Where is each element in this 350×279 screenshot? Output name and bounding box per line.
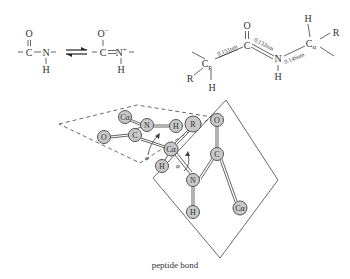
resonance-right: O− C N+ H: [92, 27, 134, 75]
bond-length-label-1: 0.151nm: [216, 43, 238, 57]
svg-text:Cα: Cα: [120, 113, 130, 122]
svg-text:φ: φ: [176, 162, 180, 170]
atom-n: N: [274, 53, 281, 64]
bond-length-structure: CR R H 0.151nm O C 0.132nm N H 0.146nm C…: [187, 13, 340, 93]
svg-text:N: N: [190, 176, 196, 185]
atom-c-alpha-center: Cα: [164, 142, 178, 156]
equilibrium-arrow-icon: [66, 47, 87, 57]
svg-text:φ: φ: [145, 154, 149, 162]
atom-c-alpha: Cα: [233, 201, 247, 215]
svg-text:O: O: [214, 116, 220, 125]
svg-text:N: N: [144, 121, 150, 130]
atom-n: N: [42, 47, 49, 58]
peptide-plane-model: φ φ Cα N H R O C Cα H N H C O Cα: [59, 100, 278, 258]
svg-text:R: R: [190, 120, 196, 129]
caption: peptide bond: [0, 260, 350, 270]
atom-n: N: [187, 174, 200, 187]
atom-h: H: [274, 71, 281, 82]
svg-text:H: H: [190, 208, 196, 217]
atom-o: O: [98, 131, 111, 144]
atom-o: O: [211, 114, 224, 127]
phi-rotation-arrow-icon: φ: [145, 133, 160, 162]
resonance-left: O C N H: [18, 28, 56, 75]
svg-text:H: H: [159, 162, 165, 171]
atom-c-alpha: Cα: [119, 111, 132, 124]
atom-r: R: [333, 27, 340, 38]
atom-c-r: CR: [202, 58, 213, 71]
atom-h: H: [170, 120, 183, 133]
atom-r: R: [185, 116, 201, 132]
atom-c: C: [26, 47, 33, 58]
svg-text:O: O: [101, 133, 107, 142]
svg-text:Cα: Cα: [166, 145, 176, 154]
atom-c: C: [211, 148, 224, 161]
svg-text:C: C: [214, 150, 219, 159]
atom-o: O: [243, 20, 250, 31]
atom-o-minus: O−: [97, 27, 108, 39]
atom-h: H: [304, 13, 311, 24]
atom-c: C: [100, 47, 107, 58]
svg-text:H: H: [173, 122, 179, 131]
atom-c: C: [244, 40, 251, 51]
atom-n-plus: N+: [115, 46, 126, 58]
atom-r: R: [187, 73, 194, 84]
atom-h: H: [117, 64, 124, 75]
svg-text:C: C: [132, 131, 137, 140]
atom-c: C: [129, 129, 142, 142]
atom-h: H: [42, 64, 49, 75]
atom-h: H: [187, 206, 200, 219]
atom-c-alpha: Cα: [306, 38, 317, 51]
svg-text:Cα: Cα: [235, 204, 245, 213]
atom-n: N: [141, 119, 154, 132]
atom-o: O: [25, 28, 32, 39]
atom-h: H: [208, 82, 215, 93]
peptide-bond-diagram: O C N H O− C N+ H CR: [0, 0, 350, 279]
bond-length-label-3: 0.146nm: [283, 51, 305, 65]
atom-h: H: [156, 160, 169, 173]
